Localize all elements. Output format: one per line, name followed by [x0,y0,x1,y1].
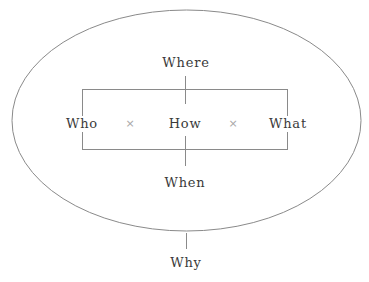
label-where: Where [161,55,210,71]
label-how: How [168,116,203,132]
label-who: Who [65,116,99,132]
label-what: What [268,116,308,132]
multiply-operator-left: × [125,118,134,130]
multiply-operator-right: × [228,118,237,130]
label-when: When [163,175,206,191]
diagram-canvas [0,0,369,282]
label-why: Why [169,255,202,271]
